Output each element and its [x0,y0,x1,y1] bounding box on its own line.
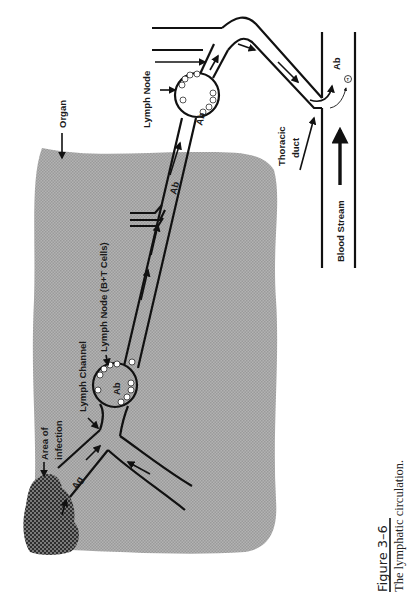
organ-region [33,148,277,554]
lymph-channel-label: Lymph Channel [77,341,88,412]
area-of-infection-label-2: infection [53,420,64,460]
blood-stream-label: Blood Stream [335,200,346,262]
antibody-label-node1: Ab [111,382,122,395]
t-cell-released: T [345,76,352,83]
figure-caption: The lymphatic circulation. [392,460,406,592]
area-of-infection-label-1: Area of [39,426,50,460]
thoracic-duct-label-1: Thoracic [276,126,287,166]
thoracic-duct-label-2: duct [290,137,301,158]
lymph-node-label: Lymph Node [141,71,152,128]
figure-number: Figure 3–6 [375,525,390,592]
lymphatic-circulation-diagram: Organ Area of infection Lymph Channel Ly… [0,0,410,612]
lymph-node-bt-label: Lymph Node (B+T Cells) [98,242,109,352]
organ-label: Organ [57,100,68,128]
lymph-node-2 [175,71,219,117]
antibody-label-blood: Ab [331,57,342,70]
